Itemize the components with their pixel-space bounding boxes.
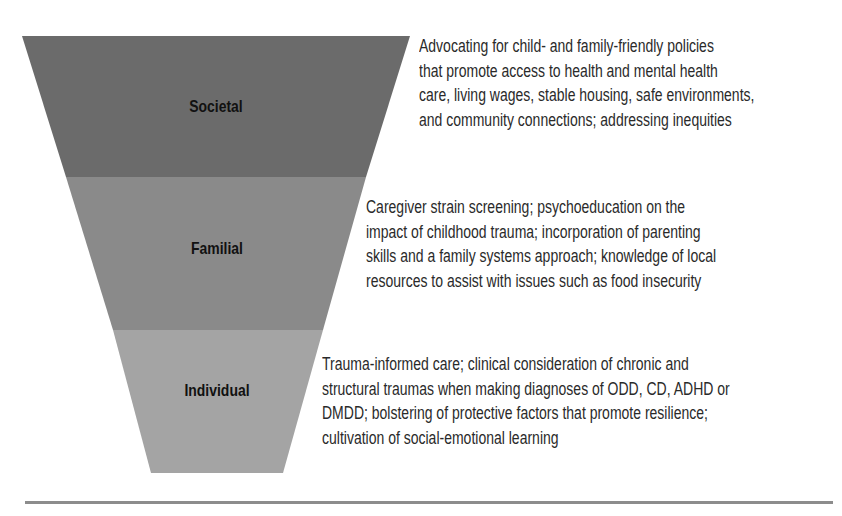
description-line: cultivation of social-emotional learning (322, 426, 730, 451)
description-line: care, living wages, stable housing, safe… (419, 83, 754, 108)
description-line: structural traumas when making diagnoses… (322, 377, 730, 402)
level-label-familial: Familial (151, 239, 282, 259)
description-line: that promote access to health and mental… (419, 59, 754, 84)
funnel-band-individual (113, 330, 323, 473)
description-line: impact of childhood trauma; incorporatio… (366, 220, 716, 245)
description-societal: Advocating for child- and family-friendl… (419, 34, 754, 132)
bottom-divider (25, 501, 833, 504)
level-label-societal: Societal (150, 97, 281, 117)
description-line: DMDD; bolstering of protective factors t… (322, 401, 730, 426)
description-line: Advocating for child- and family-friendl… (419, 34, 754, 59)
description-line: skills and a family systems approach; kn… (366, 244, 716, 269)
description-line: Trauma-informed care; clinical considera… (322, 352, 730, 377)
description-line: and community connections; addressing in… (419, 108, 754, 133)
description-individual: Trauma-informed care; clinical considera… (322, 352, 730, 450)
description-familial: Caregiver strain screening; psychoeducat… (366, 195, 716, 293)
description-line: resources to assist with issues such as … (366, 269, 716, 294)
level-label-individual: Individual (151, 381, 282, 401)
description-line: Caregiver strain screening; psychoeducat… (366, 195, 716, 220)
